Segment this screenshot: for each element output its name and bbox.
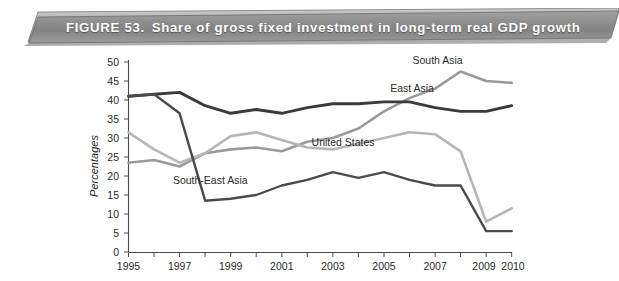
x-tick-1999: 1999 xyxy=(219,260,243,272)
x-axis-ticks xyxy=(129,253,512,258)
x-tick-2007: 2007 xyxy=(423,260,447,272)
x-tick-2005: 2005 xyxy=(372,260,396,272)
y-axis-title: Percentages xyxy=(88,135,100,197)
y-tick-30: 30 xyxy=(107,132,119,144)
y-tick-40: 40 xyxy=(107,94,119,106)
banner-main-facet xyxy=(29,11,619,43)
y-tick-25: 25 xyxy=(107,151,119,163)
y-tick-0: 0 xyxy=(113,246,119,258)
series-label-south-asia: South Asia xyxy=(413,54,463,66)
y-tick-45: 45 xyxy=(107,75,119,87)
x-tick-2003: 2003 xyxy=(321,260,345,272)
x-tick-2009: 2009 xyxy=(472,260,496,272)
y-tick-15: 15 xyxy=(107,189,119,201)
y-tick-5: 5 xyxy=(113,227,119,239)
x-tick-2010: 2010 xyxy=(501,260,525,272)
series-line-south-asia xyxy=(129,72,512,167)
x-tick-2001: 2001 xyxy=(270,260,294,272)
series-annotations: South Asia East Asia United States South… xyxy=(173,54,463,186)
series-label-east-asia: East Asia xyxy=(390,82,434,94)
x-tick-1995: 1995 xyxy=(117,260,141,272)
series-label-south-east-asia: South-East Asia xyxy=(173,174,248,186)
figure-banner: FIGURE 53. Share of gross fixed investme… xyxy=(0,8,619,46)
chart-region: Percentages 50 45 40 35 30 25 20 15 10 xyxy=(0,46,619,281)
y-tick-10: 10 xyxy=(107,208,119,220)
y-axis-ticks: 50 45 40 35 30 25 20 15 10 5 0 xyxy=(107,56,128,258)
figure-banner-shape xyxy=(0,8,619,46)
x-axis-tick-labels: 1995 1997 1999 2001 2003 2005 2007 2009 … xyxy=(117,260,525,272)
series-line-east-asia xyxy=(129,92,512,113)
data-series-group xyxy=(129,72,512,232)
line-chart: Percentages 50 45 40 35 30 25 20 15 10 xyxy=(0,46,619,281)
x-tick-1997: 1997 xyxy=(168,260,192,272)
series-label-united-states: United States xyxy=(312,136,375,148)
y-tick-35: 35 xyxy=(107,113,119,125)
y-tick-50: 50 xyxy=(107,56,119,68)
y-tick-20: 20 xyxy=(107,170,119,182)
